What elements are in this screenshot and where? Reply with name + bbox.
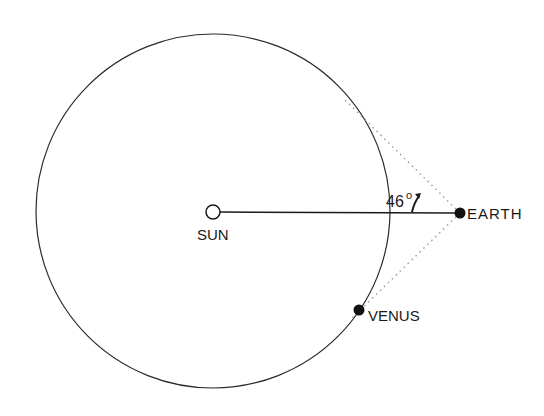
sun-earth-line (220, 212, 455, 213)
sun-marker (206, 205, 220, 219)
earth-marker (455, 208, 466, 219)
earth-label: EARTH (467, 205, 523, 222)
venus-marker (354, 305, 365, 316)
sun-label: SUN (197, 226, 229, 243)
diagram-canvas: SUN EARTH VENUS 46 o (0, 0, 544, 416)
angle-arc (412, 196, 419, 212)
earth-venus-tangent-line (352, 213, 460, 318)
angle-label: 46 (386, 193, 404, 210)
venus-elongation-diagram: SUN EARTH VENUS 46 o (0, 0, 544, 416)
venus-label: VENUS (368, 307, 420, 324)
degree-symbol: o (406, 189, 412, 201)
